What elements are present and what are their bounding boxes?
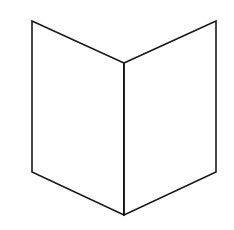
left-panel — [32, 21, 124, 215]
right-panel — [124, 21, 216, 215]
diagram-canvas — [0, 0, 234, 230]
open-book-figure — [0, 0, 234, 230]
